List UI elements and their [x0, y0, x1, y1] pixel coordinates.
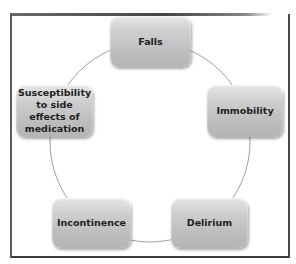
- node-falls-label: Falls: [138, 36, 163, 48]
- node-incontinence-label: Incontinence: [57, 217, 126, 229]
- node-susceptibility-label: Susceptibility to side effects of medica…: [18, 87, 91, 135]
- node-immobility: Immobility: [207, 85, 283, 137]
- node-incontinence: Incontinence: [52, 198, 131, 248]
- node-immobility-label: Immobility: [216, 105, 273, 117]
- node-susceptibility: Susceptibility to side effects of medica…: [16, 85, 93, 137]
- node-delirium-label: Delirium: [187, 217, 232, 229]
- node-delirium: Delirium: [171, 198, 248, 248]
- node-falls: Falls: [110, 16, 191, 67]
